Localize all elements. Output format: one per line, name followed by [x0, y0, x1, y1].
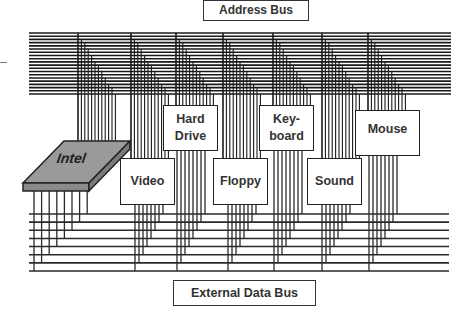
intel-cpu-chip: [23, 141, 130, 191]
device-floppy: Floppy: [213, 158, 268, 205]
edge-mark: [0, 62, 7, 63]
cpu-label: Intel: [56, 150, 87, 166]
device-keyboard: Key- board: [259, 105, 314, 151]
external-data-bus-label: External Data Bus: [173, 280, 316, 306]
data-bus-lines: [29, 214, 449, 271]
device-hard-drive: Hard Drive: [163, 105, 218, 151]
device-mouse: Mouse: [355, 110, 420, 156]
device-sound: Sound: [307, 158, 362, 205]
address-bus-label: Address Bus: [203, 0, 309, 21]
device-video: Video: [120, 158, 175, 205]
